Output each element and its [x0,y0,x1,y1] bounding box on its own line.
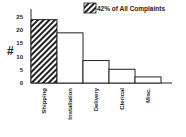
y-tick-label: 15 [16,40,23,46]
x-tick-label: Misc. [145,88,151,103]
category-labels: ShippingInstallationDeliveryClericalMisc… [41,87,151,119]
y-tick-label: 10 [16,54,23,60]
bar-installation [57,33,83,83]
pareto-bar-chart: 0510152025# ShippingInstallationDelivery… [0,0,186,137]
bar-clerical [109,69,135,83]
bar-misc [135,77,161,83]
x-tick-label: Clerical [119,88,125,110]
legend-swatch [84,3,96,13]
x-tick-label: Delivery [93,87,99,111]
y-axis-label: # [7,44,14,58]
x-tick-label: Shipping [41,88,47,114]
legend-label: 42% of All Complaints [97,5,165,13]
y-tick-label: 5 [20,67,24,73]
bars [31,20,161,83]
x-tick-label: Installation [67,88,73,120]
y-tick-label: 25 [16,14,23,20]
bar-delivery [83,61,109,83]
y-tick-label: 0 [20,80,24,86]
legend: 42% of All Complaints [84,3,165,13]
y-tick-label: 20 [16,27,23,33]
bar-shipping [31,20,57,83]
